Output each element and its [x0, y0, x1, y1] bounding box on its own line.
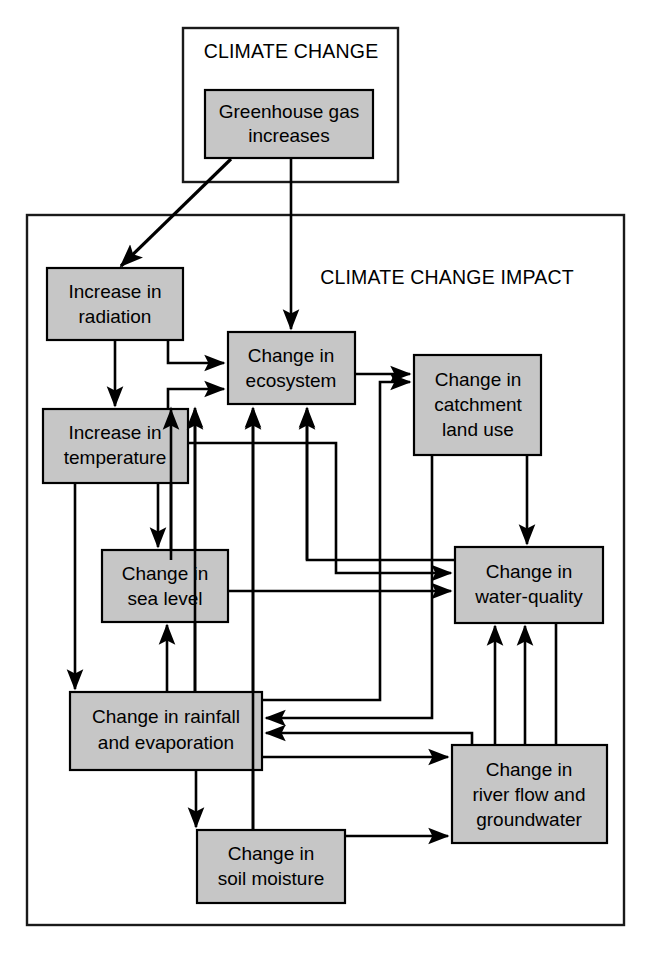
node-increase-radiation-line-1: Increase in — [69, 281, 162, 302]
node-change-ecosystem-box — [228, 332, 355, 404]
node-increase-temperature: Increase in temperature — [43, 409, 188, 483]
climate-change-title: CLIMATE CHANGE — [204, 40, 379, 62]
node-change-river-flow-line-2: river flow and — [473, 784, 586, 805]
node-change-rainfall-line-2: and evaporation — [98, 732, 234, 753]
node-increase-temperature-line-1: Increase in — [69, 422, 162, 443]
node-change-sea-level-box — [102, 550, 228, 622]
node-change-ecosystem-line-2: ecosystem — [246, 370, 337, 391]
node-change-water-quality-line-2: water-quality — [474, 586, 583, 607]
node-change-rainfall-evaporation: Change in rainfall and evaporation — [70, 692, 262, 770]
node-increase-radiation-box — [47, 268, 183, 340]
node-change-ecosystem: Change in ecosystem — [228, 332, 355, 404]
node-change-sea-level-line-2: sea level — [128, 588, 203, 609]
node-change-ecosystem-line-1: Change in — [248, 345, 335, 366]
node-change-river-flow-line-3: groundwater — [476, 809, 582, 830]
node-change-river-flow-groundwater: Change in river flow and groundwater — [452, 745, 607, 843]
node-greenhouse-gas-line-2: increases — [248, 125, 329, 146]
node-change-sea-level: Change in sea level — [102, 550, 228, 622]
node-change-soil-moisture-box — [197, 830, 345, 903]
node-change-catchment-line-1: Change in — [435, 369, 522, 390]
node-greenhouse-gas: Greenhouse gas increases — [205, 90, 373, 158]
node-change-catchment-line-3: land use — [442, 419, 514, 440]
node-increase-temperature-line-2: temperature — [64, 447, 166, 468]
node-change-catchment-line-2: catchment — [434, 394, 522, 415]
node-change-catchment-land-use: Change in catchment land use — [414, 355, 541, 455]
node-change-rainfall-line-1: Change in rainfall — [92, 706, 240, 727]
node-change-soil-moisture-line-2: soil moisture — [218, 868, 325, 889]
node-change-rainfall-box — [70, 692, 262, 770]
node-change-soil-moisture-line-1: Change in — [228, 843, 315, 864]
node-increase-radiation-line-2: radiation — [79, 306, 152, 327]
node-increase-radiation: Increase in radiation — [47, 268, 183, 340]
climate-change-impact-diagram: CLIMATE CHANGE CLIMATE CHANGE IMPACT — [0, 0, 650, 955]
node-change-water-quality-line-1: Change in — [486, 561, 573, 582]
climate-change-impact-title: CLIMATE CHANGE IMPACT — [320, 266, 574, 288]
node-increase-temperature-box — [43, 409, 188, 483]
node-change-river-flow-line-1: Change in — [486, 759, 573, 780]
node-greenhouse-gas-line-1: Greenhouse gas — [219, 101, 360, 122]
flowchart-canvas: CLIMATE CHANGE CLIMATE CHANGE IMPACT — [0, 0, 650, 955]
node-change-water-quality: Change in water-quality — [455, 547, 603, 623]
node-change-water-quality-box — [455, 547, 603, 623]
node-change-soil-moisture: Change in soil moisture — [197, 830, 345, 903]
